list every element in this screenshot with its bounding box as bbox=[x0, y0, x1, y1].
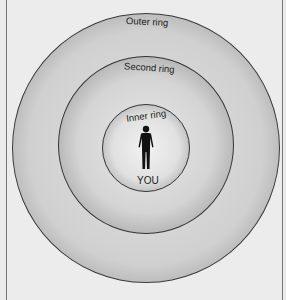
person-silhouette-icon bbox=[135, 125, 157, 171]
outer-ring-label: Outer ring bbox=[126, 15, 169, 28]
you-label: YOU bbox=[137, 175, 159, 186]
